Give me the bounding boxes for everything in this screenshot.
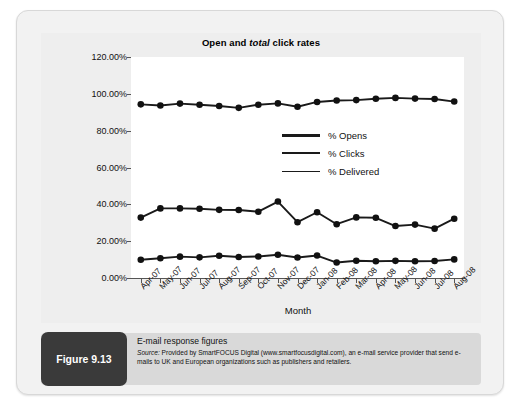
y-tick-label: 40.00% xyxy=(43,199,127,209)
x-tick-mark xyxy=(415,279,416,283)
legend-swatch-clicks xyxy=(282,152,320,154)
data-point xyxy=(294,254,301,261)
data-point xyxy=(137,256,144,263)
data-point xyxy=(235,254,242,261)
data-point xyxy=(392,223,399,230)
chart-title-part-1: Open and xyxy=(202,37,249,48)
x-tick-mark xyxy=(141,279,142,283)
series-delivered xyxy=(137,95,457,112)
x-axis-title: Month xyxy=(131,305,465,316)
y-tick-label: 120.00% xyxy=(43,52,127,62)
data-point xyxy=(235,105,242,112)
y-tick-mark xyxy=(127,241,131,242)
data-point xyxy=(177,100,184,107)
y-tick-label: 80.00% xyxy=(43,126,127,136)
data-point xyxy=(333,97,340,104)
data-point xyxy=(451,256,458,263)
caption-source: Source: Provided by SmartFOCUS Digital (… xyxy=(137,348,473,367)
data-point xyxy=(353,257,360,264)
data-point xyxy=(275,252,282,259)
data-point xyxy=(431,225,438,232)
data-point xyxy=(392,95,399,102)
data-point xyxy=(431,258,438,265)
chart-title: Open and total click rates xyxy=(41,37,481,48)
data-point xyxy=(431,96,438,103)
data-point xyxy=(196,205,203,212)
legend-item-delivered: % Delivered xyxy=(282,162,417,180)
data-point xyxy=(275,100,282,107)
figure-screenshot: Open and total click rates 0.00%20.00%40… xyxy=(0,0,520,409)
data-point xyxy=(451,98,458,105)
data-point xyxy=(451,215,458,222)
y-tick-label: 0.00% xyxy=(43,273,127,283)
legend-label-opens: % Opens xyxy=(328,130,367,141)
y-tick-label: 100.00% xyxy=(43,89,127,99)
chart-panel: Open and total click rates 0.00%20.00%40… xyxy=(41,33,481,323)
data-point xyxy=(373,214,380,221)
x-tick-mark xyxy=(180,279,181,283)
data-point xyxy=(137,101,144,108)
data-point xyxy=(216,252,223,259)
data-point xyxy=(333,221,340,228)
data-point xyxy=(412,95,419,102)
data-point xyxy=(255,253,262,260)
legend-swatch-opens xyxy=(282,134,320,137)
figure-number-tag: Figure 9.13 xyxy=(41,332,127,386)
data-point xyxy=(137,214,144,221)
y-tick-mark xyxy=(127,94,131,95)
data-point xyxy=(353,97,360,104)
chart-legend: % Opens % Clicks % Delivered xyxy=(282,126,417,180)
data-point xyxy=(255,208,262,215)
x-tick-mark xyxy=(160,279,161,283)
data-point xyxy=(235,207,242,214)
data-point xyxy=(275,198,282,205)
data-point xyxy=(294,219,301,226)
data-point xyxy=(157,255,164,262)
x-tick-mark xyxy=(376,279,377,283)
data-point xyxy=(216,103,223,110)
x-tick-mark xyxy=(337,279,338,283)
data-point xyxy=(177,253,184,260)
caption-title: E-mail response figures xyxy=(137,336,473,347)
y-axis-tick-labels: 0.00%20.00%40.00%60.00%80.00%100.00%120.… xyxy=(41,57,127,278)
data-point xyxy=(177,205,184,212)
y-tick-mark xyxy=(127,204,131,205)
caption-source-label: Source: xyxy=(137,349,160,356)
data-point xyxy=(196,101,203,108)
chart-title-emphasis: total xyxy=(249,37,270,48)
x-tick-mark xyxy=(258,279,259,283)
data-point xyxy=(314,209,321,216)
x-tick-mark xyxy=(278,279,279,283)
y-tick-mark xyxy=(127,131,131,132)
data-point xyxy=(353,214,360,221)
data-point xyxy=(255,101,262,108)
series-clicks xyxy=(137,252,457,266)
data-point xyxy=(157,102,164,109)
figure-frame: Open and total click rates 0.00%20.00%40… xyxy=(16,10,504,395)
data-point xyxy=(392,258,399,265)
x-tick-mark xyxy=(435,279,436,283)
data-point xyxy=(373,96,380,103)
data-point xyxy=(373,258,380,265)
legend-item-opens: % Opens xyxy=(282,126,417,144)
x-tick-mark xyxy=(317,279,318,283)
y-tick-label: 20.00% xyxy=(43,236,127,246)
x-tick-mark xyxy=(356,279,357,283)
data-point xyxy=(294,103,301,110)
y-tick-mark xyxy=(127,168,131,169)
x-tick-mark xyxy=(395,279,396,283)
x-tick-mark xyxy=(219,279,220,283)
legend-label-clicks: % Clicks xyxy=(328,148,364,159)
data-point xyxy=(333,259,340,266)
figure-caption-text: E-mail response figures Source: Provided… xyxy=(137,336,473,367)
x-tick-mark xyxy=(454,279,455,283)
y-tick-label: 60.00% xyxy=(43,163,127,173)
y-tick-mark xyxy=(127,57,131,58)
data-point xyxy=(216,207,223,214)
series-opens xyxy=(137,198,457,232)
y-tick-mark xyxy=(127,278,131,279)
x-tick-mark xyxy=(298,279,299,283)
caption-source-body: Provided by SmartFOCUS Digital (www.smar… xyxy=(137,349,461,365)
data-point xyxy=(412,258,419,265)
chart-title-part-2: click rates xyxy=(270,37,320,48)
